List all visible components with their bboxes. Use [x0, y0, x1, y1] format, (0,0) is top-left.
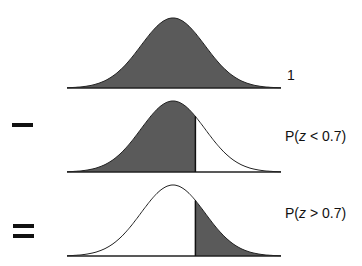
p-greater-label: P(z > 0.7)	[285, 205, 346, 221]
p-less-var: z	[299, 128, 306, 144]
shaded-area-0	[67, 18, 281, 88]
total-area-label: 1	[287, 67, 295, 83]
p-less-prefix: P(	[285, 128, 299, 144]
equals-sign-top	[13, 224, 34, 228]
p-greater-prefix: P(	[285, 205, 299, 221]
normal-curve-2	[67, 185, 281, 256]
p-greater-suffix: > 0.7)	[306, 205, 346, 221]
shaded-area-1	[67, 101, 195, 172]
shaded-area-2	[195, 200, 281, 256]
p-greater-var: z	[299, 205, 306, 221]
p-less-label: P(z < 0.7)	[285, 128, 346, 144]
minus-sign	[12, 123, 33, 127]
equals-sign-bottom	[13, 234, 34, 238]
p-less-suffix: < 0.7)	[306, 128, 346, 144]
